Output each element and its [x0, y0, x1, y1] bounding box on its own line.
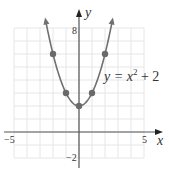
data-point	[89, 90, 95, 96]
y-axis-arrow-icon	[76, 9, 82, 17]
curve-arrow-icon	[43, 18, 49, 25]
curve-arrow-icon	[109, 18, 115, 25]
data-point	[63, 90, 69, 96]
equation-lhs: y = x	[102, 69, 134, 84]
axes	[4, 9, 163, 168]
x-axis-label: x	[156, 133, 164, 148]
equation-label: y = x2 + 2	[102, 67, 159, 84]
x-tick-label-5: 5	[142, 134, 147, 145]
parabola-chart: y x 8 −2 −5 5 y = x2 + 2	[0, 0, 169, 175]
data-point	[102, 51, 108, 57]
x-tick-label-neg5: −5	[4, 134, 15, 145]
equation-rhs: + 2	[137, 69, 159, 84]
y-tick-label-neg2: −2	[66, 152, 77, 163]
axis-labels: y x 8 −2 −5 5 y = x2 + 2	[4, 5, 164, 163]
y-tick-label-8: 8	[72, 25, 77, 36]
data-point	[50, 51, 56, 57]
y-axis-label: y	[83, 5, 92, 20]
data-point	[76, 103, 82, 109]
